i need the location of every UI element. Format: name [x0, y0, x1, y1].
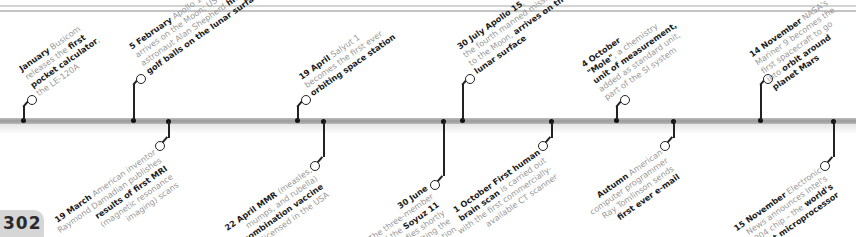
event-marker-icon	[27, 95, 37, 105]
event-marker-icon	[301, 95, 311, 105]
event-marker-icon	[660, 141, 670, 151]
event-marker-icon	[620, 95, 630, 105]
event-label: 19 March American inventor Raymond Damad…	[50, 147, 181, 237]
stem	[443, 121, 445, 176]
event-label: 22 April MMR (measles, mumps, and rubell…	[223, 165, 331, 237]
stem	[23, 106, 25, 120]
event-label: 15 November Electronic News announces In…	[732, 165, 841, 237]
header-rule-1	[0, 5, 856, 7]
stem	[833, 121, 835, 157]
stem	[551, 121, 553, 138]
stem	[760, 84, 762, 120]
stem	[168, 121, 170, 138]
event-label: January Busicom releases the first pocke…	[17, 18, 107, 98]
event-marker-icon	[465, 74, 475, 84]
stem	[323, 121, 325, 157]
page-number: 302	[3, 213, 42, 233]
event-marker-icon	[155, 141, 165, 151]
stem	[616, 106, 618, 120]
event-label: Autumn American computer programmer Ray …	[581, 147, 680, 233]
stem	[673, 121, 675, 138]
event-marker-icon	[136, 74, 146, 84]
stem	[462, 84, 464, 120]
event-marker-icon	[430, 180, 440, 190]
event-label: 4 October "Mole", a chemistry unit of me…	[579, 4, 690, 102]
stem	[133, 84, 135, 120]
header-rule-2	[0, 10, 856, 12]
event-marker-icon	[538, 141, 548, 151]
timeline-bar-shadow	[0, 124, 856, 134]
event-label: 30 June The three-member crew of the Soy…	[343, 183, 458, 237]
event-label: 1 October First human brain scan is carr…	[444, 147, 559, 237]
event-marker-icon	[820, 161, 830, 171]
event-label: 19 April Salyut 1 becomes the first ever…	[297, 15, 397, 98]
stem	[297, 106, 299, 120]
